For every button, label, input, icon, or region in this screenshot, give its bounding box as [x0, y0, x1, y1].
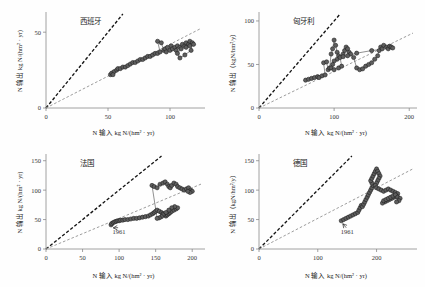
x-axis-ticks: 050100150200 — [44, 249, 197, 261]
x-tick-label: 200 — [187, 254, 197, 261]
x-tick-label: 200 — [404, 113, 414, 120]
data-point — [175, 51, 179, 55]
panel-1: 050100050西班牙N 输入 kg N/(hm² · yr)N 输出 kg … — [0, 0, 213, 144]
annotation-1961: 1961 — [341, 224, 354, 235]
reference-line-lower — [259, 169, 413, 249]
y-tick-label: 0 — [38, 245, 41, 252]
y-tick-label: 100 — [31, 187, 41, 194]
y-tick-label: 0 — [251, 104, 254, 111]
data-point — [331, 47, 335, 51]
y-axis-title: N 输出（kgN/hm²/y） — [228, 171, 237, 234]
x-tick-label: 100 — [165, 113, 175, 120]
y-axis-ticks: 050100150 — [244, 157, 259, 252]
y-axis-title: N 输出 kg N/(hm² · yr) — [15, 172, 24, 234]
x-tick-label: 0 — [44, 254, 47, 261]
data-point — [178, 56, 182, 60]
data-point — [325, 60, 329, 64]
y-axis-title: N 输出（kgN/hm²/y） — [228, 30, 237, 93]
panel-title: 法国 — [80, 158, 94, 168]
series-points — [303, 38, 394, 82]
data-point — [373, 57, 377, 61]
data-point — [155, 216, 159, 220]
reference-line-one-to-one — [46, 14, 123, 108]
data-point — [179, 47, 183, 51]
axes-4 — [259, 154, 417, 249]
reference-line-one-to-one — [259, 156, 352, 249]
data-point — [329, 52, 333, 56]
x-axis-title: N 输入 kg N/(hm² · yr) — [93, 128, 155, 137]
reference-line-one-to-one — [46, 156, 162, 249]
y-tick-label: 100 — [244, 17, 254, 24]
series-points — [339, 167, 402, 223]
panel-4: 01002000501001501961德国N 输入 kg N/(hm² · y… — [213, 144, 425, 287]
data-point — [391, 46, 395, 50]
series-points — [108, 39, 195, 77]
y-tick-label: 50 — [248, 216, 255, 223]
x-axis-ticks: 0100200 — [257, 249, 381, 261]
data-point — [346, 54, 350, 58]
data-point — [355, 51, 359, 55]
figure-root: 050100050西班牙N 输入 kg N/(hm² · yr)N 输出 kg … — [0, 0, 425, 287]
panel-title: 德国 — [293, 158, 307, 168]
reference-line-lower — [46, 184, 201, 249]
data-point — [155, 186, 159, 190]
data-point — [352, 55, 356, 59]
panel-3: 0501001502000501001501961法国N 输入 kg N/(hm… — [0, 144, 213, 287]
y-tick-label: 150 — [31, 157, 41, 164]
data-point — [189, 48, 193, 52]
x-tick-label: 200 — [372, 254, 382, 261]
y-axis-ticks: 050 — [35, 29, 47, 112]
x-axis-title: N 输入 kg N/(hm² · yr) — [305, 128, 367, 137]
y-tick-label: 0 — [38, 104, 41, 111]
panel-title: 西班牙 — [80, 16, 102, 26]
axes-3 — [46, 154, 205, 249]
x-tick-label: 50 — [105, 113, 112, 120]
panel-2: 0100200050100匈牙利N 输入 kg N/(hm² · yr)N 输出… — [213, 0, 425, 144]
y-axis-title: N 输出 kg N/(hm² · yr) — [15, 30, 24, 92]
y-axis-ticks: 050100 — [244, 17, 259, 111]
x-axis-title: N 输入 kg N/(hm² · yr) — [305, 271, 367, 280]
data-point — [332, 68, 336, 72]
data-point — [323, 73, 327, 77]
y-tick-label: 100 — [244, 187, 254, 194]
data-point — [370, 48, 374, 52]
x-axis-ticks: 050100 — [44, 108, 175, 120]
data-point — [334, 43, 338, 47]
annotation-label: 1961 — [341, 228, 354, 235]
annotation-label: 1961 — [113, 228, 126, 235]
x-tick-label: 50 — [79, 254, 86, 261]
x-tick-label: 0 — [257, 113, 260, 120]
x-tick-label: 100 — [329, 113, 339, 120]
y-tick-label: 50 — [35, 216, 42, 223]
x-tick-label: 100 — [114, 254, 124, 261]
data-point — [394, 200, 398, 204]
data-point — [191, 42, 195, 46]
y-tick-label: 50 — [35, 29, 42, 36]
y-axis-ticks: 050100150 — [31, 157, 46, 252]
data-point — [111, 73, 115, 77]
x-axis-ticks: 0100200 — [257, 108, 414, 120]
data-point — [376, 54, 380, 58]
annotation-1961: 1961 — [113, 226, 126, 235]
y-tick-label: 0 — [251, 245, 254, 252]
data-point — [370, 61, 374, 65]
y-tick-label: 150 — [244, 157, 254, 164]
data-point — [332, 38, 336, 42]
series-points — [109, 180, 194, 227]
data-point — [340, 64, 344, 68]
data-point — [186, 189, 190, 193]
panel-title: 匈牙利 — [293, 16, 314, 26]
data-point — [341, 55, 345, 59]
data-point — [159, 41, 163, 45]
x-axis-title: N 输入 kg N/(hm² · yr) — [93, 271, 155, 280]
x-tick-label: 0 — [44, 113, 47, 120]
x-tick-label: 150 — [151, 254, 161, 261]
x-tick-label: 100 — [313, 254, 323, 261]
data-point — [183, 53, 187, 57]
x-tick-label: 0 — [257, 254, 260, 261]
y-tick-label: 50 — [248, 61, 255, 68]
